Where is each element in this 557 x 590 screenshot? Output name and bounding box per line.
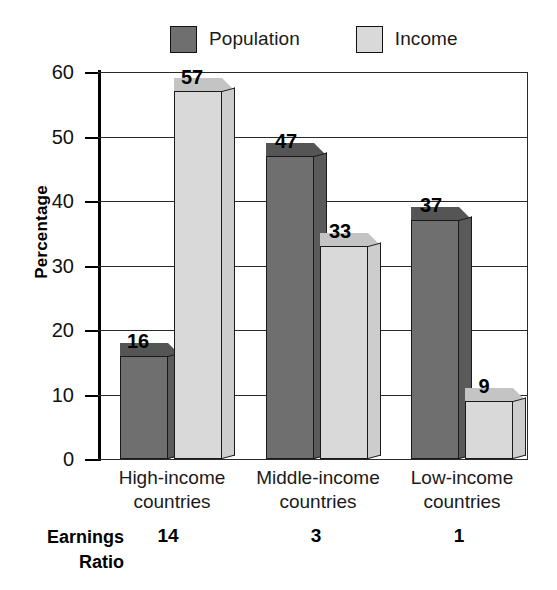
bar-side-face [368, 243, 381, 459]
bar-side-face [222, 88, 235, 459]
plot-area: 16 57 47 33 37 [98, 72, 528, 459]
gridline-0 [98, 459, 528, 460]
legend-swatch-population-icon [170, 26, 197, 53]
bar-population-high-income[interactable] [120, 356, 168, 459]
chart-legend: Population Income [170, 22, 470, 56]
bar-income-middle-income[interactable] [320, 246, 368, 459]
bar-front-face [465, 401, 513, 459]
bar-value-population-middle-income: 47 [275, 130, 297, 153]
bar-value-population-high-income: 16 [127, 330, 149, 353]
bar-value-population-low-income: 37 [420, 194, 442, 217]
bar-front-face [320, 246, 368, 459]
bar-side-face [513, 397, 526, 459]
category-label-high-income: High-income countries [87, 466, 257, 514]
bar-income-low-income[interactable] [465, 401, 513, 459]
plot-frame-right [527, 72, 528, 459]
legend-entry-income: Income [356, 26, 458, 53]
bar-value-income-high-income: 57 [181, 66, 203, 89]
earnings-ratio-title-line1: Earnings [12, 525, 124, 550]
category-label-low-income: Low-income countries [377, 466, 547, 514]
earnings-ratio-value-high-income: 14 [157, 525, 178, 547]
bar-population-low-income[interactable] [411, 220, 459, 459]
y-tick-label-30: 30 [52, 254, 74, 277]
bar-front-face [174, 91, 222, 459]
category-label-line1: High-income [87, 466, 257, 490]
y-tick-label-0: 0 [63, 448, 74, 471]
y-tick-label-60: 60 [52, 61, 74, 84]
earnings-ratio-title-line2: Ratio [12, 550, 124, 575]
y-axis-tick-50 [85, 137, 98, 139]
earnings-ratio-value-middle-income: 3 [311, 525, 322, 547]
legend-swatch-income-icon [356, 26, 383, 53]
bar-front-face [266, 156, 314, 459]
y-tick-label-10: 10 [52, 383, 74, 406]
category-label-line2: countries [87, 490, 257, 514]
gridline-60 [98, 72, 528, 73]
y-axis-tick-30 [85, 266, 98, 268]
bar-income-high-income[interactable] [174, 91, 222, 459]
y-axis-tick-40 [85, 201, 98, 203]
legend-label-income: Income [395, 28, 458, 50]
y-tick-label-40: 40 [52, 190, 74, 213]
category-label-line1: Low-income [377, 466, 547, 490]
bar-value-income-middle-income: 33 [329, 220, 351, 243]
chart-page: Population Income 60 50 40 30 20 10 0 Pe… [0, 0, 557, 590]
earnings-ratio-value-low-income: 1 [454, 525, 465, 547]
y-axis-tick-0 [85, 459, 98, 461]
y-tick-label-20: 20 [52, 319, 74, 342]
y-tick-label-50: 50 [52, 125, 74, 148]
y-axis-title: Percentage [32, 167, 52, 297]
bar-front-face [120, 356, 168, 459]
legend-entry-population: Population [170, 26, 300, 53]
gridline-50 [98, 137, 528, 138]
y-axis-tick-60 [85, 72, 98, 74]
bar-value-income-low-income: 9 [478, 375, 489, 398]
earnings-ratio-title: Earnings Ratio [12, 525, 124, 575]
bar-population-middle-income[interactable] [266, 156, 314, 459]
legend-label-population: Population [209, 28, 300, 50]
bar-front-face [411, 220, 459, 459]
category-label-line2: countries [377, 490, 547, 514]
y-axis-tick-10 [85, 395, 98, 397]
y-axis-tick-20 [85, 330, 98, 332]
